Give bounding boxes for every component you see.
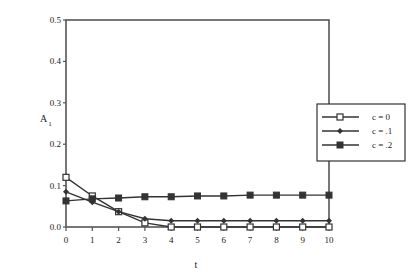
filled-square-marker	[273, 192, 279, 198]
x-tick-label: 6	[222, 235, 227, 245]
filled-square-marker	[63, 198, 69, 204]
open-square-marker	[337, 114, 343, 120]
legend-label: c = .2	[372, 140, 392, 150]
y-tick-label: 0.4	[50, 56, 62, 66]
y-tick-label: 0.5	[50, 15, 62, 25]
x-tick-label: 7	[248, 235, 253, 245]
x-tick-label: 8	[274, 235, 279, 245]
x-tick-label: 0	[64, 235, 69, 245]
filled-square-marker	[195, 193, 201, 199]
open-square-marker	[168, 224, 174, 230]
diamond-marker	[300, 218, 306, 224]
diamond-marker	[326, 218, 332, 224]
filled-square-marker	[142, 194, 148, 200]
line-chart: 0.00.10.20.30.40.5 012345678910 A1 t c =…	[0, 0, 416, 278]
diamond-marker	[247, 218, 253, 224]
filled-square-marker	[300, 192, 306, 198]
data-series	[63, 174, 332, 230]
x-tick-label: 4	[169, 235, 174, 245]
legend: c = 0c = .1c = .2	[317, 104, 405, 161]
x-tick-label: 10	[325, 235, 335, 245]
x-tick-label: 9	[300, 235, 305, 245]
diamond-marker	[195, 218, 201, 224]
open-square-marker	[221, 224, 227, 230]
diamond-marker	[168, 218, 174, 224]
open-square-marker	[300, 224, 306, 230]
open-square-marker	[326, 224, 332, 230]
y-axis-label-subscript: 1	[48, 120, 52, 128]
open-square-marker	[273, 224, 279, 230]
y-tick-label: 0.2	[50, 139, 61, 149]
legend-label: c = 0	[372, 112, 391, 122]
y-axis-label: A1	[40, 113, 52, 128]
open-square-marker	[195, 224, 201, 230]
x-axis-label: t	[195, 259, 198, 270]
open-square-marker	[247, 224, 253, 230]
diamond-marker	[273, 218, 279, 224]
open-square-marker	[63, 174, 69, 180]
filled-square-marker	[116, 195, 122, 201]
filled-square-marker	[247, 192, 253, 198]
x-tick-label: 3	[143, 235, 148, 245]
y-tick-label: 0.0	[50, 222, 62, 232]
filled-square-marker	[221, 193, 227, 199]
diamond-marker	[63, 189, 69, 195]
x-tick-label: 1	[90, 235, 95, 245]
filled-square-marker	[168, 194, 174, 200]
diamond-marker	[221, 218, 227, 224]
legend-label: c = .1	[372, 126, 392, 136]
y-tick-label: 0.1	[50, 181, 61, 191]
y-axis-label-main: A	[40, 113, 48, 124]
filled-square-marker	[337, 142, 343, 148]
y-tick-label: 0.3	[50, 98, 62, 108]
x-tick-label: 2	[116, 235, 121, 245]
x-tick-label: 5	[195, 235, 200, 245]
filled-square-marker	[89, 196, 95, 202]
filled-square-marker	[326, 192, 332, 198]
